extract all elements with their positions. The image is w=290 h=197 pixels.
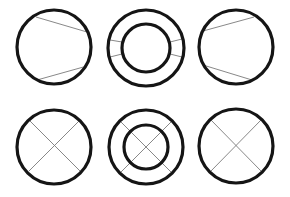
diagram-canvas (0, 0, 290, 197)
figure-bottom-left-circle-cross (17, 110, 91, 184)
outer-circle (17, 10, 91, 84)
inner-circle (122, 24, 170, 72)
outer-circle (199, 10, 273, 84)
figure-bottom-right-circle-cross (199, 109, 273, 183)
outer-circle (108, 10, 184, 86)
outer-circle (17, 110, 91, 184)
guide-line (110, 54, 122, 57)
guide-line (170, 39, 182, 42)
figure-top-right-circle-chords (199, 10, 273, 84)
figure-top-left-circle-chords (17, 10, 91, 84)
figure-top-middle-annulus-spokes (108, 10, 184, 86)
guide-line (170, 54, 182, 57)
guide-line (110, 40, 122, 42)
figure-bottom-middle-annulus-cross (109, 110, 183, 184)
